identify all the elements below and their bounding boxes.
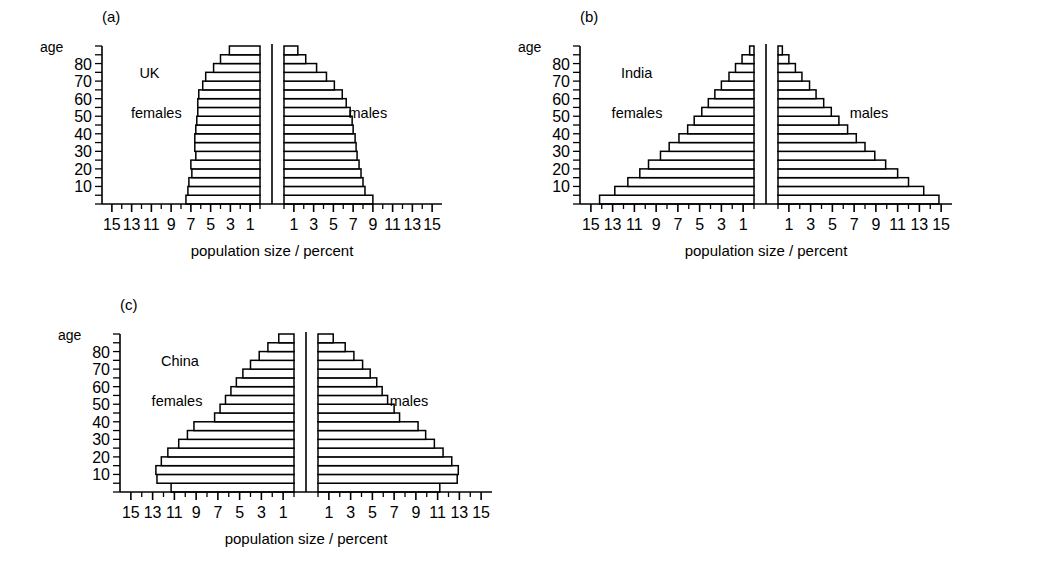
x-tick-label: 5 [695, 216, 704, 233]
bar-female-75-79 [214, 64, 260, 73]
bar-male-45-49 [284, 116, 352, 125]
bar-male-65-69 [284, 81, 334, 90]
x-tick-label: 1 [279, 504, 288, 521]
bar-male-45-49 [778, 116, 839, 125]
x-tick-label: 1 [739, 216, 748, 233]
bar-female-45-49 [197, 116, 260, 125]
x-tick-label: 9 [652, 216, 661, 233]
bar-male-75-79 [778, 64, 795, 73]
panel-b-plot: 13579111315135791113151020304050607080po… [552, 44, 952, 259]
bar-male-60-64 [318, 378, 377, 387]
bar-male-75-79 [318, 352, 354, 361]
bar-female-5-9 [188, 186, 260, 195]
x-tick-label: 13 [403, 216, 421, 233]
x-axis-label: population size / percent [685, 242, 848, 259]
bar-female-50-54 [702, 107, 754, 116]
bar-male-55-59 [778, 99, 824, 108]
x-tick-label: 7 [213, 504, 222, 521]
age-tick-label-30: 30 [74, 143, 92, 160]
x-tick-label: 15 [103, 216, 121, 233]
bar-female-10-14 [156, 466, 294, 475]
bar-male-15-19 [318, 457, 452, 466]
age-tick-label-40: 40 [552, 126, 570, 143]
bar-male-25-29 [284, 151, 357, 160]
x-tick-label: 1 [246, 216, 255, 233]
x-tick-label: 1 [324, 504, 333, 521]
x-tick-label: 13 [144, 504, 162, 521]
bar-male-20-24 [318, 448, 443, 457]
bar-female-15-19 [640, 169, 754, 178]
panel-c-plot: 13579111315135791113151020304050607080po… [92, 332, 492, 547]
x-tick-label: 15 [423, 216, 441, 233]
bar-female-65-69 [721, 81, 754, 90]
bar-female-60-64 [715, 90, 754, 99]
bar-female-10-14 [189, 178, 260, 187]
bar-female-70-74 [206, 72, 260, 81]
bar-female-75-79 [736, 64, 754, 73]
panel-a-tag: (a) [102, 8, 120, 25]
age-tick-label-80: 80 [552, 56, 570, 73]
x-tick-label: 11 [384, 216, 401, 233]
age-tick-label-40: 40 [92, 414, 110, 431]
age-tick-label-70: 70 [552, 73, 570, 90]
age-tick-label-30: 30 [92, 431, 110, 448]
panel-c-svg: (c) age 13579111315135791113151020304050… [58, 292, 558, 582]
bar-male-65-69 [778, 81, 810, 90]
bar-male-20-24 [778, 160, 886, 169]
age-tick-label-20: 20 [74, 161, 92, 178]
x-tick-label: 11 [626, 216, 643, 233]
x-axis-label: population size / percent [191, 242, 354, 259]
bar-female-40-44 [196, 125, 260, 134]
x-tick-label: 13 [123, 216, 141, 233]
x-tick-label: 5 [329, 216, 338, 233]
country-annotation: UK [139, 65, 159, 81]
bar-male-50-54 [778, 107, 831, 116]
females-annotation: females [131, 105, 182, 121]
bar-male-70-74 [778, 72, 802, 81]
panel-c-tag: (c) [120, 296, 138, 313]
bar-female-10-14 [628, 178, 754, 187]
bar-male-85+ [284, 46, 298, 55]
panel-b: (b) age 13579111315135791113151020304050… [518, 4, 1018, 289]
bar-male-85+ [318, 334, 333, 343]
x-tick-label: 3 [346, 504, 355, 521]
country-annotation: China [161, 353, 200, 369]
bar-male-35-39 [284, 134, 355, 143]
bar-female-55-59 [198, 99, 260, 108]
females-annotation: females [152, 393, 203, 409]
age-tick-label-30: 30 [552, 143, 570, 160]
bar-female-20-24 [168, 448, 294, 457]
bar-female-30-34 [195, 143, 260, 152]
x-tick-label: 11 [143, 216, 160, 233]
bar-male-25-29 [318, 439, 434, 448]
bar-male-45-49 [318, 404, 394, 413]
age-tick-label-50: 50 [552, 108, 570, 125]
bar-female-40-44 [688, 125, 754, 134]
bar-male-0-4 [284, 195, 373, 204]
age-tick-label-50: 50 [74, 108, 92, 125]
bar-male-30-34 [318, 431, 426, 440]
bar-male-25-29 [778, 151, 875, 160]
bar-male-5-9 [778, 186, 924, 195]
bar-male-5-9 [318, 474, 457, 483]
x-tick-label: 9 [871, 216, 880, 233]
x-tick-label: 3 [717, 216, 726, 233]
x-tick-label: 7 [850, 216, 859, 233]
bar-female-25-29 [196, 151, 260, 160]
bar-female-40-44 [215, 413, 294, 422]
bar-female-55-59 [708, 99, 754, 108]
bar-male-80-84 [778, 55, 789, 64]
age-tick-label-10: 10 [552, 178, 570, 195]
x-tick-label: 3 [257, 504, 266, 521]
males-annotation: males [850, 105, 889, 121]
panel-b-tag: (b) [580, 8, 598, 25]
bar-male-5-9 [284, 186, 365, 195]
panel-a-age-axis-label: age [40, 39, 64, 55]
x-tick-label: 5 [368, 504, 377, 521]
panel-a-svg: (a) age 13579111315135791113151020304050… [40, 4, 510, 289]
x-tick-label: 1 [289, 216, 298, 233]
bar-female-20-24 [649, 160, 754, 169]
bar-female-85+ [750, 46, 754, 55]
x-tick-label: 9 [411, 504, 420, 521]
bar-male-15-19 [778, 169, 898, 178]
